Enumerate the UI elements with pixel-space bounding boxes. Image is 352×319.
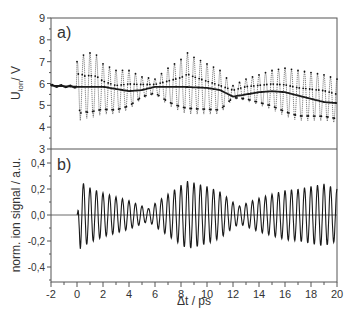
x-axis-label: Δt / ps: [177, 294, 211, 308]
svg-text:16: 16: [279, 288, 291, 300]
svg-text:8: 8: [39, 34, 45, 46]
figure: 3456789 0,40,20,0-0,2-0,4 -2024681012141…: [0, 0, 352, 319]
y-axis-a-label-sub: ion: [16, 81, 25, 92]
svg-text:5: 5: [39, 99, 45, 111]
svg-text:18: 18: [305, 288, 317, 300]
svg-text:6: 6: [39, 78, 45, 90]
series-a-background: [51, 86, 337, 104]
svg-text:14: 14: [253, 288, 265, 300]
y-axis-a-label-tail: / V: [9, 66, 23, 81]
svg-text:4: 4: [39, 121, 45, 133]
y-axis-a-ticks: 3456789: [39, 12, 51, 155]
svg-text:7: 7: [39, 56, 45, 68]
svg-text:0,4: 0,4: [31, 158, 45, 169]
svg-text:-2: -2: [46, 288, 56, 300]
y-axis-b-ticks: 0,40,20,0-0,2-0,4: [28, 158, 51, 280]
y-axis-a-label-main: U: [9, 91, 23, 100]
svg-text:0: 0: [74, 288, 80, 300]
svg-text:3: 3: [39, 143, 45, 155]
panel-b-label: b): [57, 156, 71, 173]
svg-text:12: 12: [227, 288, 239, 300]
svg-text:-0,2: -0,2: [28, 236, 46, 247]
svg-text:9: 9: [39, 12, 45, 24]
svg-text:2: 2: [100, 288, 106, 300]
svg-text:20: 20: [331, 288, 343, 300]
svg-text:0,0: 0,0: [31, 210, 45, 221]
svg-text:4: 4: [126, 288, 132, 300]
y-axis-b-label: norm. ion signal / a.u.: [9, 158, 23, 273]
svg-text:0,2: 0,2: [31, 184, 45, 195]
svg-text:6: 6: [152, 288, 158, 300]
svg-text:-0,4: -0,4: [28, 262, 46, 273]
panel-a-label: a): [57, 24, 71, 41]
y-axis-a-label: Uion/ V: [9, 66, 25, 100]
svg-text:Uion/ V: Uion/ V: [9, 66, 25, 100]
